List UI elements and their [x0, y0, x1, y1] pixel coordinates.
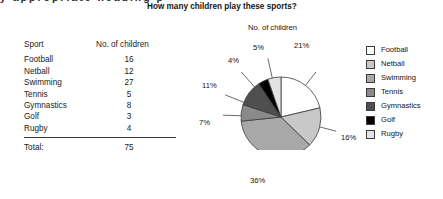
chart-title: How many children play these sports? — [147, 2, 297, 11]
cell-sport: Gymnastics — [24, 101, 67, 110]
cell-count: 4 — [112, 124, 146, 133]
pie-percent-label: 7% — [199, 118, 210, 127]
legend-swatch-icon — [366, 116, 375, 125]
cell-count: 27 — [112, 78, 146, 87]
pie-percent-label: 36% — [250, 176, 265, 185]
legend-label: Rugby — [381, 129, 403, 138]
pie-percent-label: 16% — [341, 133, 356, 142]
legend-label: Gymnastics — [381, 101, 421, 110]
pie-leader-line — [320, 127, 336, 131]
cell-sport: Football — [24, 55, 53, 64]
sports-data-table: Sport No. of children Football 16 Netbal… — [24, 40, 194, 135]
legend-label: Golf — [381, 115, 395, 124]
table-total-divider — [24, 137, 176, 138]
cell-sport: Netball — [24, 67, 50, 76]
table-row: Netball 12 — [24, 67, 194, 78]
table-row: Gymnastics 8 — [24, 101, 194, 112]
column-header-count: No. of children — [96, 40, 176, 49]
cell-count: 12 — [112, 67, 146, 76]
pie-leader-line — [241, 72, 254, 87]
pie-leader-line — [225, 95, 244, 102]
table-total-row: Total: 75 — [24, 143, 194, 155]
cell-sport: Rugby — [24, 124, 48, 133]
pie-chart — [196, 30, 376, 150]
cell-sport: Golf — [24, 112, 39, 121]
pie-leader-line — [306, 72, 316, 85]
pie-leader-line — [223, 115, 241, 116]
legend-swatch-icon — [366, 46, 375, 55]
table-row: Rugby 4 — [24, 124, 194, 135]
pie-percent-label: 5% — [253, 43, 264, 52]
table-row: Tennis 5 — [24, 90, 194, 101]
cell-count: 3 — [112, 112, 146, 121]
pie-percent-label: 11% — [202, 81, 217, 90]
cell-count: 8 — [112, 101, 146, 110]
table-row: Golf 3 — [24, 112, 194, 123]
worksheet-page: y appropriate heading p How many childre… — [0, 0, 443, 199]
legend-label: Netball — [381, 59, 405, 68]
legend-swatch-icon — [366, 130, 375, 139]
legend-label: Swimming — [381, 73, 416, 82]
pie-percent-label: 4% — [228, 56, 239, 65]
legend-swatch-icon — [366, 88, 375, 97]
column-header-sport: Sport — [24, 40, 44, 49]
table-row: Football 16 — [24, 55, 194, 66]
pie-percent-label: 21% — [294, 41, 309, 50]
legend-label: Tennis — [381, 87, 403, 96]
table-header-row: Sport No. of children — [24, 40, 194, 51]
table-row: Swimming 27 — [24, 78, 194, 89]
total-value: 75 — [112, 143, 146, 152]
cell-sport: Tennis — [24, 90, 48, 99]
total-label: Total: — [24, 143, 44, 152]
pie-slices — [241, 77, 321, 150]
cell-sport: Swimming — [24, 78, 62, 87]
legend-swatch-icon — [366, 74, 375, 83]
legend-label: Football — [381, 45, 408, 54]
pie-leader-line — [268, 58, 272, 78]
cell-count: 16 — [112, 55, 146, 64]
cell-count: 5 — [112, 90, 146, 99]
legend-swatch-icon — [366, 60, 375, 69]
legend-swatch-icon — [366, 102, 375, 111]
